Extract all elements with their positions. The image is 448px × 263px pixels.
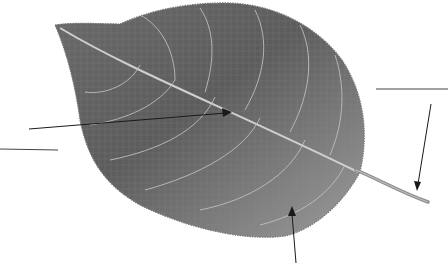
leaf	[0, 0, 448, 263]
petiole-pointer-line	[418, 104, 431, 184]
arrowhead-icon	[414, 181, 421, 191]
leaf-diagram	[0, 0, 448, 263]
blank-label-line-left	[0, 149, 58, 150]
